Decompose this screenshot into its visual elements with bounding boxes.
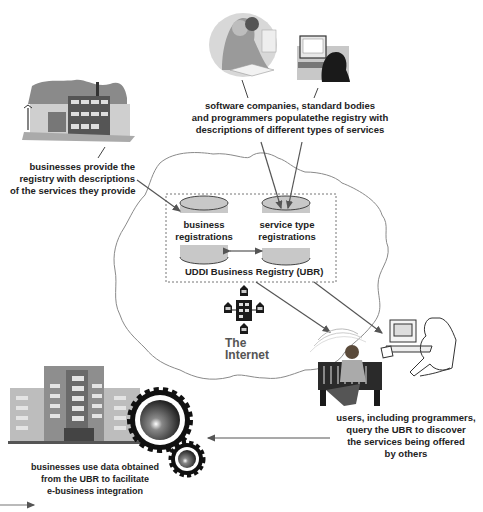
caption-line: software companies, standard bodies [150, 100, 430, 112]
db-label-line: service type [254, 219, 320, 231]
programmer-computer-illustration [297, 36, 350, 82]
internet-label: The Internet [225, 337, 269, 361]
caption-line: and programmers populatethe registry wit… [150, 112, 430, 124]
desktop-user-illustration [381, 318, 456, 376]
gear-icon-small [171, 443, 203, 475]
business-registrations-label: business registrations [172, 219, 236, 243]
caption-line: businesses use data obtained [30, 461, 160, 473]
ubr-title: UDDI Business Registry (UBR) [185, 266, 323, 277]
caption-line: e-business integration [30, 485, 160, 497]
corporate-tower-illustration [8, 366, 148, 444]
caption-line: by others [330, 448, 482, 460]
caption-line: the services being offered [330, 436, 482, 448]
db-label-line: registrations [172, 231, 236, 243]
caption-line: descriptions of different types of servi… [150, 124, 430, 136]
businesses-provide-caption: businesses provide the registry with des… [10, 161, 135, 197]
internet-label-line: Internet [225, 349, 269, 361]
caption-line: from the UBR to facilitate [30, 473, 160, 485]
caption-line: registry with descriptions [10, 173, 135, 185]
businesses-use-caption: businesses use data obtained from the UB… [30, 461, 160, 497]
db-label-line: business [172, 219, 236, 231]
uddi-diagram: software companies, standard bodies and … [0, 0, 483, 512]
gear-icon-large [130, 390, 190, 450]
office-building-illustration [22, 80, 135, 142]
internet-server-icon [224, 285, 264, 334]
software-companies-caption: software companies, standard bodies and … [150, 100, 430, 136]
caption-line: businesses provide the [10, 161, 135, 173]
users-query-caption: users, including programmers, query the … [330, 412, 482, 460]
mobile-user-illustration [310, 329, 382, 406]
software-team-illustration [209, 13, 277, 77]
db-label-line: registrations [254, 231, 320, 243]
service-type-registrations-label: service type registrations [254, 219, 320, 243]
caption-line: users, including programmers, [330, 412, 482, 424]
caption-line: query the UBR to discover [330, 424, 482, 436]
caption-line: of the services they provide [10, 185, 135, 197]
